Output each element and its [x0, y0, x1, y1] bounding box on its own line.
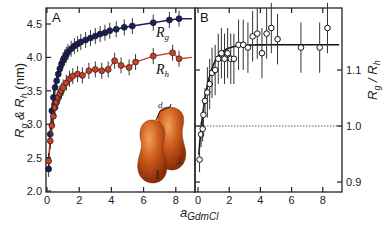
data-point	[254, 31, 260, 37]
data-point	[176, 56, 182, 62]
data-point	[197, 157, 203, 163]
data-point	[105, 66, 111, 72]
data-point	[113, 26, 119, 32]
data-point	[129, 23, 135, 29]
panel-a-label: A	[52, 10, 61, 25]
y-tick-label: 2.5	[27, 152, 42, 164]
data-point	[215, 56, 221, 62]
y-tick-label: 4.5	[27, 18, 42, 30]
y-tick-label: 1.1	[346, 64, 361, 76]
data-point	[166, 17, 172, 23]
data-point	[92, 66, 98, 72]
panel-b-series	[197, 3, 339, 172]
data-point	[126, 64, 132, 70]
inset-d-label: d	[158, 100, 163, 110]
data-point	[225, 50, 231, 56]
data-point	[259, 50, 265, 56]
x-tick-label: 8	[320, 194, 326, 206]
data-point	[298, 45, 304, 51]
data-point	[317, 45, 323, 51]
x-tick-label: 8	[173, 194, 179, 206]
y-tick-label: 2.0	[27, 185, 42, 197]
data-point	[231, 56, 237, 62]
data-point	[212, 67, 218, 73]
y-tick-label: 1.0	[346, 120, 361, 132]
data-point	[219, 50, 225, 56]
data-point	[49, 123, 55, 129]
data-point	[112, 58, 118, 64]
data-point	[52, 84, 58, 90]
data-point	[107, 28, 113, 34]
x-tick-label: 4	[257, 194, 263, 206]
panel-b-x-ticks: 02468	[195, 8, 326, 206]
x-tick-label: 0	[44, 194, 50, 206]
figure: A 2.02.53.03.54.04.5 02468 Rg Rh d ∥ ⊥	[0, 0, 386, 226]
data-point	[54, 78, 60, 84]
x-tick-label: 2	[76, 194, 82, 206]
x-tick-label: 6	[289, 194, 295, 206]
rg-curve-label: Rg	[155, 25, 170, 42]
panel-b-label: B	[200, 10, 209, 25]
x-tick-label: 2	[226, 194, 232, 206]
inset-perpendicular-label: ⊥	[175, 155, 184, 166]
data-point	[325, 25, 331, 31]
data-point	[121, 24, 127, 30]
y-tick-label: 4.0	[27, 51, 42, 63]
data-point	[79, 72, 85, 78]
inset-parallel-label: ∥	[155, 169, 160, 179]
data-point	[46, 158, 52, 164]
panel-a: A 2.02.53.03.54.04.5 02468 Rg Rh d ∥ ⊥	[27, 8, 195, 206]
data-point	[150, 53, 156, 59]
data-point	[222, 56, 228, 62]
panel-b: B 0.91.01.1 02468	[195, 3, 361, 206]
data-point	[47, 138, 53, 144]
data-point	[264, 31, 270, 37]
data-point	[176, 16, 182, 22]
protein-dimer-inset: d ∥ ⊥	[138, 100, 186, 183]
data-point	[99, 68, 105, 74]
data-point	[275, 36, 281, 42]
x-axis-title: aGdmCl	[180, 205, 219, 222]
data-point	[170, 50, 176, 56]
data-point	[200, 126, 206, 132]
rh-curve-label: Rh	[155, 62, 170, 79]
data-point	[269, 25, 275, 31]
data-point	[86, 68, 92, 74]
x-tick-label: 6	[141, 194, 147, 206]
x-tick-label: 4	[108, 194, 114, 206]
x-tick-label: 0	[195, 194, 201, 206]
y-axis-title-right: Rg / Rh	[365, 60, 382, 100]
data-point	[50, 113, 56, 119]
protein-front-lobe	[138, 120, 167, 183]
data-point	[133, 59, 139, 65]
y-tick-label: 0.9	[346, 176, 361, 188]
data-point	[245, 45, 251, 51]
y-axis-title-left: Rg & Rh (nm)	[12, 63, 29, 138]
data-point	[118, 62, 124, 68]
